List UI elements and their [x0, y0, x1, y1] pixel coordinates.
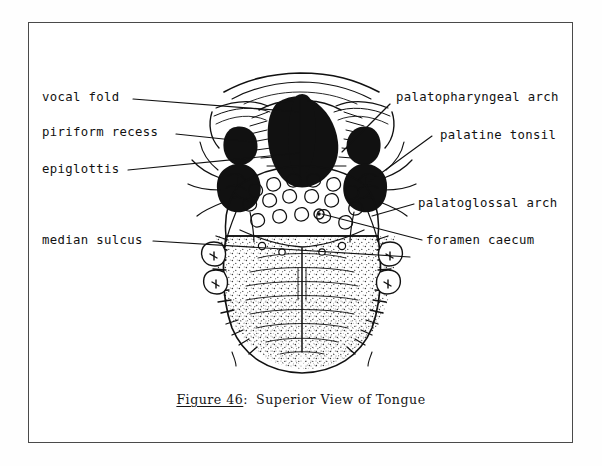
label-median-sulcus: median sulcus — [42, 234, 143, 246]
label-palatoglossal-arch: palatoglossal arch — [418, 197, 558, 209]
label-piriform-recess: piriform recess — [42, 126, 158, 138]
figure-caption-text: Superior View of Tongue — [256, 392, 426, 407]
figure-number: Figure 46 — [176, 392, 243, 407]
figure-page: vocal fold piriform recess epiglottis me… — [0, 0, 602, 466]
figure-caption: Figure 46:Superior View of Tongue — [0, 392, 602, 407]
label-palatine-tonsil: palatine tonsil — [440, 129, 556, 141]
label-foramen-caecum: foramen caecum — [426, 234, 535, 246]
label-vocal-fold: vocal fold — [42, 91, 120, 103]
figure-caption-separator: : — [243, 392, 248, 407]
label-palatopharyngeal-arch: palatopharyngeal arch — [396, 91, 559, 103]
label-epiglottis: epiglottis — [42, 163, 120, 175]
